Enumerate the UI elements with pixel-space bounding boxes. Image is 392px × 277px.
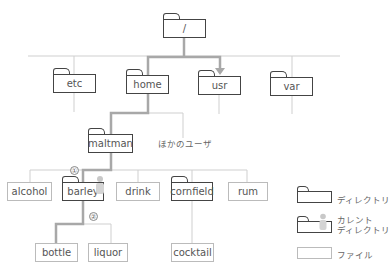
file-drink[interactable]: drink	[116, 182, 160, 201]
dir-label: cornfield	[170, 186, 213, 197]
file-label: alcohol	[12, 186, 48, 197]
dir-label: /	[183, 23, 186, 34]
legend-file-icon	[297, 247, 332, 259]
dir-home[interactable]: home	[126, 75, 169, 94]
dir-label: var	[283, 81, 299, 92]
file-alcohol[interactable]: alcohol	[7, 182, 52, 201]
dir-label: home	[133, 79, 161, 90]
dir-maltman[interactable]: maltman	[88, 134, 133, 153]
dir-var[interactable]: var	[270, 77, 313, 96]
file-label: bottle	[42, 247, 71, 258]
file-rum[interactable]: rum	[228, 182, 268, 201]
file-label: drink	[125, 186, 150, 197]
dir-label: maltman	[88, 138, 133, 149]
dir-label: usr	[212, 80, 228, 91]
dir-label: etc	[67, 78, 83, 89]
dir-etc[interactable]: etc	[53, 74, 96, 93]
other-users-label: ほかのユーザ	[158, 137, 212, 149]
marker-1: ①	[70, 166, 79, 175]
dir-usr[interactable]: usr	[198, 76, 241, 95]
file-liquor[interactable]: liquor	[88, 243, 128, 262]
dir-cornfield[interactable]: cornfield	[171, 182, 213, 201]
legend-current-line1: カレント	[337, 215, 390, 225]
file-label: cocktail	[173, 247, 212, 258]
legend-current-label: カレント ディレクトリ	[337, 215, 390, 235]
legend-user-icon	[318, 213, 328, 231]
dir-root[interactable]: /	[163, 19, 206, 38]
file-label: rum	[238, 186, 258, 197]
file-bottle[interactable]: bottle	[35, 243, 78, 262]
legend-file-label: ファイル	[337, 248, 373, 260]
current-user-icon	[94, 175, 106, 195]
marker-2: ②	[89, 212, 98, 221]
file-cocktail[interactable]: cocktail	[171, 243, 214, 262]
file-label: liquor	[94, 247, 122, 258]
legend-current-line2: ディレクトリ	[337, 225, 390, 235]
legend-directory-icon	[297, 191, 332, 203]
legend-directory-label: ディレクトリ	[337, 193, 390, 205]
